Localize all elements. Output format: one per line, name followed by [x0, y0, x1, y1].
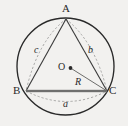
vertex-label-a: A: [62, 3, 70, 14]
center-label-o: O: [58, 62, 65, 72]
radius-label: R: [75, 77, 81, 87]
center-point-dot: [69, 66, 73, 70]
side-label-c: c: [34, 45, 38, 55]
side-label-b: b: [88, 45, 93, 55]
vertex-label-c: C: [109, 85, 116, 96]
triangle-side-ac: [66, 19, 107, 91]
side-label-a: a: [63, 99, 68, 109]
triangle-side-ab: [26, 19, 66, 91]
vertex-label-b: B: [13, 85, 20, 96]
geometry-figure: A B C O R c b a: [0, 0, 128, 126]
